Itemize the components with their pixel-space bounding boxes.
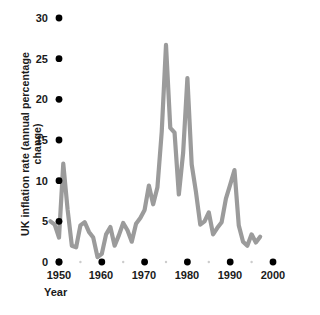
ytick-label-30: 30 <box>24 12 48 24</box>
xtick-label-1950: 1950 <box>39 269 79 281</box>
x-axis-title: Year <box>44 286 67 298</box>
line-series-uk-inflation <box>50 45 260 257</box>
ytick-label-0: 0 <box>24 256 48 268</box>
xtick-label-1960: 1960 <box>81 269 121 281</box>
y-axis-title: UK inflation rate (annual percentage cha… <box>19 44 43 244</box>
xtick-label-2000: 2000 <box>253 269 293 281</box>
xtick-label-1990: 1990 <box>210 269 250 281</box>
xtick-label-1980: 1980 <box>167 269 207 281</box>
uk-inflation-line-chart: 30 25 20 15 10 5 0 1950 1960 1970 1980 1… <box>0 0 320 315</box>
axis-minor-tick-dots <box>79 261 253 263</box>
xtick-label-1970: 1970 <box>124 269 164 281</box>
chart-plot-area <box>0 0 320 315</box>
